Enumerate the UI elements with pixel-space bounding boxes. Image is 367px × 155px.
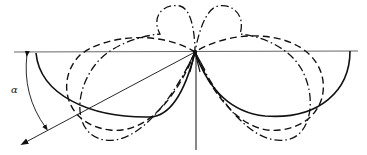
dash-dot-lobe bbox=[80, 6, 310, 141]
focal-point bbox=[193, 50, 197, 54]
alpha-angle-label: α bbox=[11, 84, 18, 95]
lobe-diagram bbox=[0, 0, 367, 155]
alpha-angle-arc bbox=[26, 54, 46, 128]
